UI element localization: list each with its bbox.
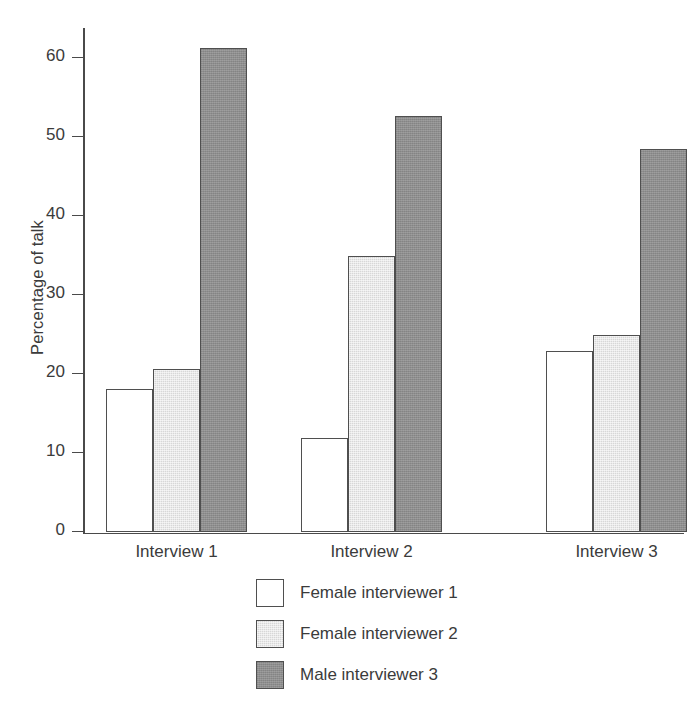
bar — [593, 335, 640, 533]
y-axis-tick: 50 — [72, 136, 83, 138]
bar — [301, 438, 348, 533]
x-axis-line — [83, 533, 684, 535]
y-axis-tick: 0 — [72, 531, 83, 533]
legend-swatch-icon — [256, 579, 284, 607]
legend-item-label: Male interviewer 3 — [300, 665, 438, 685]
y-axis-tick-label: 60 — [46, 45, 65, 67]
legend-swatch-icon — [256, 661, 284, 689]
bar — [106, 389, 153, 533]
legend-item: Female interviewer 2 — [256, 613, 458, 654]
y-axis-tick-label: 50 — [46, 124, 65, 146]
legend-item: Female interviewer 1 — [256, 572, 458, 613]
y-axis-tick: 60 — [72, 57, 83, 59]
y-axis-line — [83, 28, 85, 534]
legend-item: Male interviewer 3 — [256, 654, 458, 695]
bar — [640, 149, 687, 532]
y-axis-title: Percentage of talk — [28, 178, 47, 398]
y-axis-tick-label: 30 — [46, 282, 65, 304]
legend-item-label: Female interviewer 1 — [300, 583, 458, 603]
bar — [200, 48, 247, 533]
y-axis-tick-label: 10 — [46, 440, 65, 462]
y-axis-tick-label: 40 — [46, 203, 65, 225]
y-axis-tick: 30 — [72, 294, 83, 296]
x-axis-group-label: Interview 1 — [135, 542, 217, 562]
plot-area: 0102030405060 Interview 1Interview 2Inte… — [83, 28, 684, 534]
y-axis-tick: 10 — [72, 452, 83, 454]
chart-legend: Female interviewer 1Female interviewer 2… — [256, 572, 458, 695]
legend-swatch-icon — [256, 620, 284, 648]
bar — [348, 256, 395, 533]
x-axis-group-label: Interview 3 — [575, 542, 657, 562]
bar — [395, 116, 442, 533]
y-axis-tick-label: 20 — [46, 361, 65, 383]
bar — [546, 351, 593, 533]
legend-item-label: Female interviewer 2 — [300, 624, 458, 644]
x-axis-group-label: Interview 2 — [330, 542, 412, 562]
y-axis-tick: 20 — [72, 373, 83, 375]
y-axis-tick: 40 — [72, 215, 83, 217]
y-axis-tick-label: 0 — [56, 519, 65, 541]
bar — [153, 369, 200, 533]
